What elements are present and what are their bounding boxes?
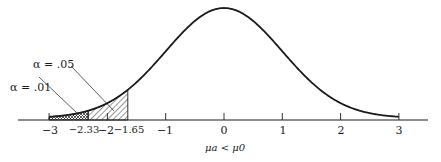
tick-label-neg1-65: −1.65: [114, 125, 145, 135]
hypothesis-caption: μa < μ0: [205, 143, 245, 153]
alpha-05-leader-line: [71, 66, 114, 111]
tick-label-2: 2: [338, 125, 345, 136]
tick-label-neg3: −3: [42, 125, 58, 136]
tick-label-neg2-33: −2.33: [69, 125, 100, 135]
tick-label-neg1: −1: [157, 125, 173, 136]
alpha-01-label: α = .01: [10, 82, 51, 93]
normal-distribution-diagram: [0, 0, 441, 162]
tick-label-neg2: −2: [98, 125, 114, 136]
alpha-05-label: α = .05: [33, 59, 74, 70]
normal-curve: [49, 8, 399, 117]
tick-label-1: 1: [280, 125, 287, 136]
tick-label-0: 0: [221, 125, 228, 136]
tick-label-3: 3: [396, 125, 403, 136]
